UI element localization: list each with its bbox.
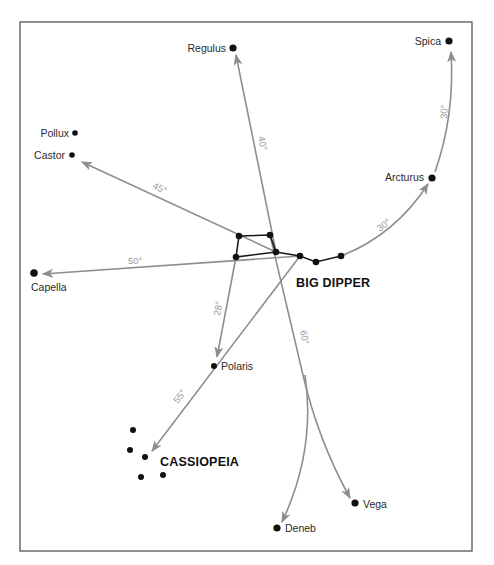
cassiopeia-star-icon: [138, 474, 144, 480]
polaris-label: Polaris: [221, 360, 253, 372]
angle-label-cassiopeia: 55°: [171, 387, 189, 405]
cassiopeia-star-icon: [130, 427, 136, 433]
angle-label-castor: 45°: [151, 180, 169, 196]
polaris-star-icon: [211, 363, 217, 369]
arcturus-star-icon: [428, 174, 435, 181]
pointer-lines: [43, 52, 452, 522]
castor-label: Castor: [34, 149, 65, 161]
pointer-to-capella: [43, 256, 300, 274]
angle-label-capella: 50°: [128, 255, 143, 266]
deneb-label: Deneb: [285, 522, 316, 534]
deneb-star-icon: [273, 524, 280, 531]
star-hopping-diagram: BIG DIPPER CASSIOPEIA Regulus Spica Poll…: [0, 0, 494, 565]
pointer-to-deneb: [282, 375, 308, 522]
dipper-star-icon: [267, 232, 274, 239]
pollux-label: Pollux: [40, 127, 69, 139]
dipper-star-icon: [233, 254, 240, 261]
pollux-star-icon: [72, 130, 78, 136]
pointer-to-cassiopeia: [152, 256, 300, 451]
angle-label-regulus: 40°: [256, 135, 270, 152]
dipper-star-icon: [313, 259, 320, 266]
pointer-to-castor: [82, 162, 276, 252]
castor-star-icon: [69, 152, 75, 158]
spica-star-icon: [445, 37, 452, 44]
cassiopeia-star-icon: [127, 447, 133, 453]
dipper-star-icon: [236, 233, 243, 240]
cassiopeia-star-icon: [160, 472, 166, 478]
vega-star-icon: [351, 499, 358, 506]
big-dipper-asterism: BIG DIPPER: [233, 232, 371, 290]
regulus-label: Regulus: [187, 42, 226, 54]
cassiopeia-label: CASSIOPEIA: [160, 455, 239, 469]
arcturus-label: Arcturus: [385, 171, 424, 183]
pointer-to-vega: [270, 235, 350, 498]
dipper-star-icon: [273, 249, 280, 256]
dipper-star-icon: [297, 253, 304, 260]
named-stars: Regulus Spica Pollux Castor Arcturus Cap…: [30, 35, 452, 534]
angle-label-arcturus: 30°: [374, 216, 392, 234]
cassiopeia-star-icon: [142, 454, 148, 460]
angle-label-polaris: 28°: [211, 300, 224, 316]
regulus-star-icon: [229, 44, 236, 51]
capella-star-icon: [30, 269, 38, 277]
spica-label: Spica: [415, 35, 441, 47]
capella-label: Capella: [31, 281, 67, 293]
big-dipper-label: BIG DIPPER: [296, 276, 370, 290]
angle-label-vega-deneb: 60°: [298, 329, 312, 346]
vega-label: Vega: [363, 498, 387, 510]
cassiopeia-asterism: CASSIOPEIA: [127, 427, 239, 480]
angle-label-spica: 30°: [438, 104, 450, 119]
pointer-to-regulus: [236, 55, 276, 252]
dipper-star-icon: [338, 253, 345, 260]
big-dipper-lines: [236, 235, 341, 262]
